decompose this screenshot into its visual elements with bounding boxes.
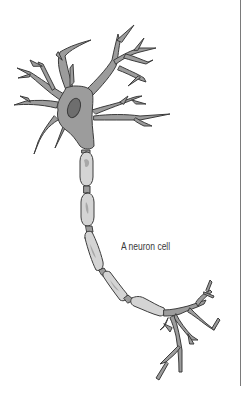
axon-terminals [156,280,220,380]
figure-caption: A neuron cell [121,241,170,252]
neuron-illustration [0,0,242,400]
cell-body [57,86,94,149]
vertical-divider [240,0,241,386]
axon [80,150,165,316]
neuron-diagram: A neuron cell [0,0,242,400]
